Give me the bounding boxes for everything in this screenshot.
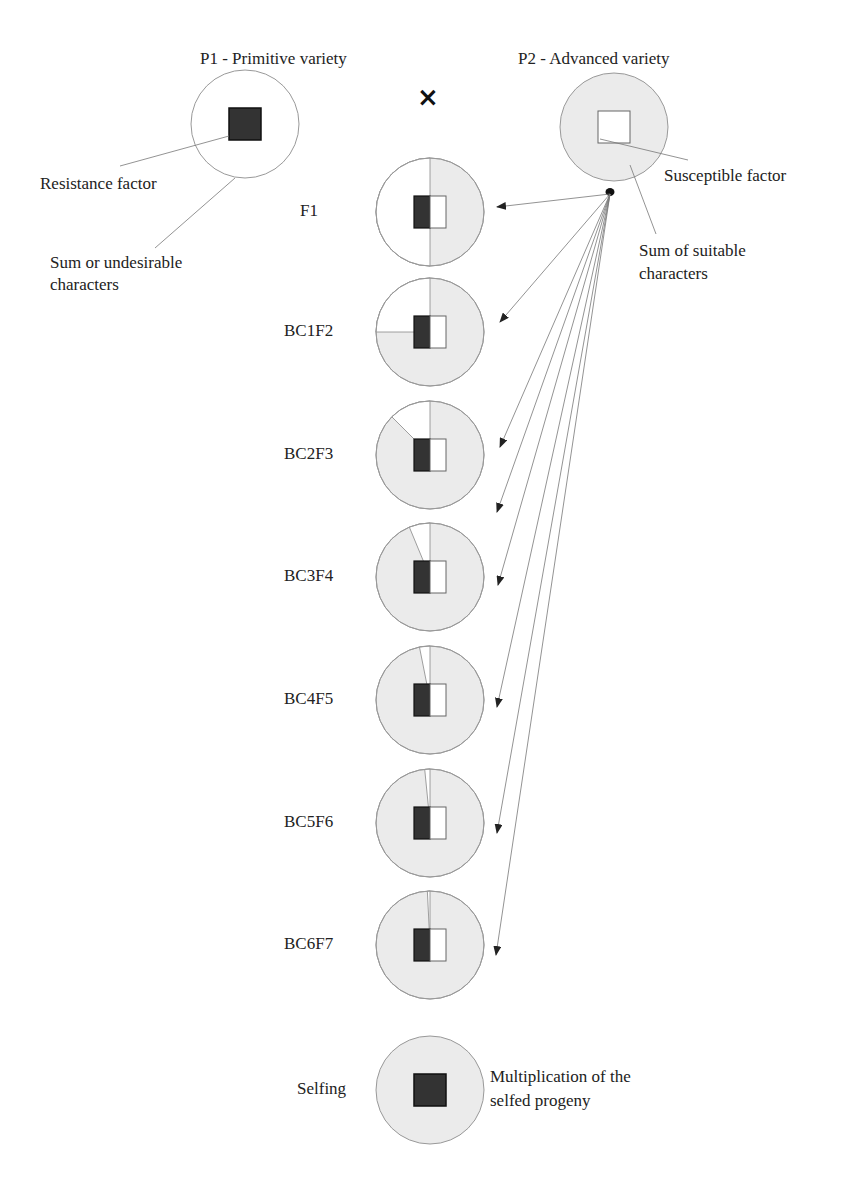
resistance-half-square — [414, 439, 430, 471]
resistance-half-square — [414, 929, 430, 961]
p1-title: P1 - Primitive variety — [200, 48, 347, 69]
generation-label-selfing: Selfing — [297, 1079, 346, 1099]
backcross-arrow — [497, 194, 610, 512]
p2-susceptible-square — [598, 111, 630, 143]
selfing-resistance-square — [414, 1074, 446, 1106]
resistance-half-square — [414, 807, 430, 839]
susceptible-half-square — [430, 439, 446, 471]
progeny-circle-bc4f5 — [376, 646, 484, 754]
progeny-circle-f1 — [376, 158, 484, 266]
progeny-layer — [376, 158, 484, 1144]
susceptible-half-square — [430, 561, 446, 593]
susceptible-half-square — [430, 807, 446, 839]
backcross-arrow — [500, 194, 610, 447]
susceptible-factor-label: Susceptible factor — [664, 165, 786, 186]
resistance-half-square — [414, 561, 430, 593]
p1-resistance-square — [229, 108, 261, 140]
backcross-arrow — [496, 194, 610, 955]
resistance-factor-label: Resistance factor — [40, 173, 157, 194]
resistance-half-square — [414, 196, 430, 228]
backcross-arrow — [497, 194, 610, 833]
resistance-half-square — [414, 684, 430, 716]
progeny-circle-bc3f4 — [376, 523, 484, 631]
progeny-circle-bc5f6 — [376, 769, 484, 877]
susceptible-half-square — [430, 196, 446, 228]
susceptible-half-square — [430, 929, 446, 961]
resistance-half-square — [414, 316, 430, 348]
generation-label-bc1f2: BC1F2 — [284, 321, 333, 341]
arrows-layer — [496, 188, 615, 955]
progeny-circle-selfing — [376, 1036, 484, 1144]
generation-label-bc4f5: BC4F5 — [284, 689, 333, 709]
sum-suitable-label-line1: Sum of suitable — [639, 240, 746, 261]
multiplication-label-line1: Multiplication of the — [490, 1066, 631, 1087]
backcross-arrow — [497, 194, 610, 707]
undesirable-leader-line — [155, 178, 235, 248]
generation-label-f1: F1 — [300, 201, 318, 221]
generation-label-bc5f6: BC5F6 — [284, 812, 333, 832]
backcross-arrow — [498, 194, 610, 585]
susceptible-half-square — [430, 316, 446, 348]
sum-undesirable-label-line2: characters — [50, 274, 119, 295]
generation-label-bc2f3: BC2F3 — [284, 444, 333, 464]
p2-title: P2 - Advanced variety — [518, 48, 670, 69]
generation-label-bc6f7: BC6F7 — [284, 934, 333, 954]
sum-undesirable-label-line1: Sum or undesirable — [50, 252, 182, 273]
susceptible-half-square — [430, 684, 446, 716]
multiplication-label-line2: selfed progeny — [490, 1090, 591, 1111]
progeny-circle-bc2f3 — [376, 401, 484, 509]
backcross-arrow — [497, 194, 610, 207]
generation-label-bc3f4: BC3F4 — [284, 566, 333, 586]
progeny-circle-bc1f2 — [376, 278, 484, 386]
cross-icon: × — [417, 82, 439, 112]
sum-suitable-label-line2: characters — [639, 263, 708, 284]
suitable-leader-line — [630, 165, 656, 234]
progeny-circle-bc6f7 — [376, 891, 484, 999]
